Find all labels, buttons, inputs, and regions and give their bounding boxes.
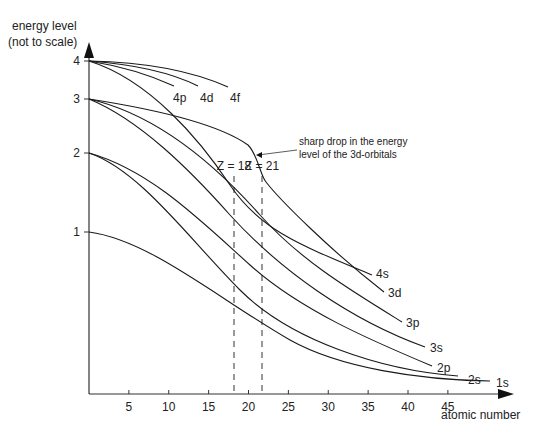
- curve-1s: [89, 232, 490, 381]
- x-axis-arrow-icon: [498, 389, 514, 399]
- curve-3p: [89, 99, 402, 322]
- z-marker-label: Z = 21: [245, 159, 280, 173]
- curve-label-4f: 4f: [230, 91, 241, 105]
- curve-label-1s: 1s: [496, 376, 509, 390]
- curve-4p: [89, 61, 174, 86]
- y-axis-title-line2: (not to scale): [8, 35, 77, 49]
- x-tick-label: 15: [202, 400, 216, 414]
- energy-level-diagram: energy level (not to scale) atomic numbe…: [0, 0, 544, 445]
- x-tick-label: 45: [441, 400, 455, 414]
- y-ticks: 1234: [73, 54, 89, 239]
- curve-label-3s: 3s: [430, 341, 443, 355]
- annotation-3d-drop: sharp drop in the energy level of the 3d…: [256, 136, 407, 160]
- x-tick-label: 5: [126, 400, 133, 414]
- curve-label-2s: 2s: [468, 373, 481, 387]
- annotation-line1: sharp drop in the energy: [299, 136, 407, 147]
- annotation-arrow-icon: [256, 152, 262, 158]
- curve-3d: [89, 99, 384, 292]
- curve-label-3d: 3d: [388, 286, 401, 300]
- orbital-curves: [89, 61, 490, 381]
- curve-label-4d: 4d: [200, 91, 213, 105]
- x-tick-label: 25: [282, 400, 296, 414]
- annotation-line2: level of the 3d-orbitals: [299, 149, 397, 160]
- y-tick-label: 1: [73, 225, 80, 239]
- y-axis-arrow-icon: [84, 42, 94, 58]
- curve-label-4s: 4s: [376, 267, 389, 281]
- x-tick-label: 20: [242, 400, 256, 414]
- y-axis-title-line1: energy level: [12, 19, 77, 33]
- y-tick-label: 3: [73, 92, 80, 106]
- x-tick-label: 10: [162, 400, 176, 414]
- x-tick-label: 30: [322, 400, 336, 414]
- curve-2s: [89, 153, 458, 376]
- curve-label-2p: 2p: [437, 361, 451, 375]
- y-tick-label: 4: [73, 54, 80, 68]
- annotation-leader-line: [258, 150, 297, 155]
- x-tick-label: 35: [361, 400, 375, 414]
- y-tick-label: 2: [73, 146, 80, 160]
- x-tick-label: 40: [401, 400, 415, 414]
- curve-label-4p: 4p: [173, 91, 187, 105]
- curve-label-3p: 3p: [406, 316, 420, 330]
